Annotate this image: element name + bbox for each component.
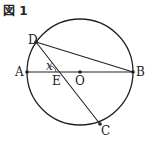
point-B — [131, 70, 135, 74]
figure-title: 図 1 — [3, 4, 28, 18]
geometry-figure: 図 1 D A B x E O C — [0, 0, 153, 141]
label-E: E — [52, 74, 61, 88]
point-A — [25, 70, 29, 74]
label-O: O — [75, 74, 85, 88]
label-D: D — [28, 33, 38, 47]
label-x: x — [46, 59, 53, 73]
label-A: A — [14, 65, 24, 79]
label-B: B — [136, 65, 145, 79]
label-C: C — [101, 124, 110, 138]
